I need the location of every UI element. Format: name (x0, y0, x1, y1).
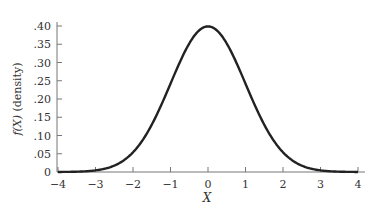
y-axis-title: f(X) (density) (11, 62, 24, 136)
y-tick-label: .30 (34, 57, 52, 70)
x-tick-label: −3 (87, 178, 103, 191)
x-tick-label: −1 (162, 178, 178, 191)
x-tick-label: 4 (355, 178, 362, 191)
y-tick-label: .40 (34, 20, 52, 33)
density-curve (58, 26, 358, 172)
y-tick-label: .25 (34, 75, 52, 88)
x-tick-label: 3 (317, 178, 324, 191)
x-tick-label: 2 (280, 178, 287, 191)
y-tick-label: .20 (34, 93, 52, 106)
x-tick-label: −2 (125, 178, 141, 191)
x-tick-label: 0 (205, 178, 212, 191)
x-tick-label: 1 (242, 178, 249, 191)
normal-density-chart: 0.05.10.15.20.25.30.35.40 −4−3−2−101234 … (0, 0, 384, 209)
y-tick-label: .35 (34, 38, 52, 51)
y-tick-label: .05 (34, 148, 52, 161)
x-axis-title: X (202, 191, 212, 205)
x-tick-label: −4 (50, 178, 66, 191)
y-tick-label: .15 (34, 111, 52, 124)
y-axis: 0.05.10.15.20.25.30.35.40 (34, 20, 63, 179)
y-tick-label: .10 (34, 130, 52, 143)
